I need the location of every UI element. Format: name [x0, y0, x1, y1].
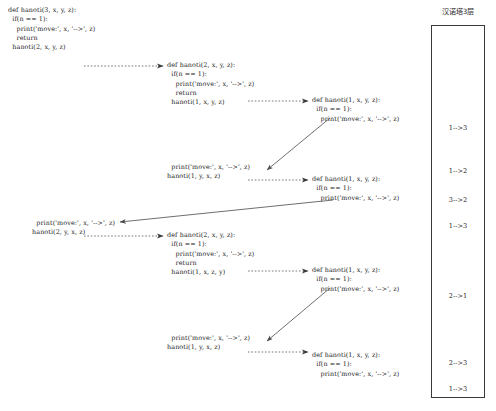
code-line: return: [167, 259, 254, 268]
move-entry: 2-->3: [431, 359, 485, 367]
code-line: hanoti(2, y, x, z): [32, 228, 115, 237]
code-line: def hanoti(1, x, y, z):: [312, 175, 399, 184]
code-line: def hanoti(1, x, y, z):: [312, 266, 399, 275]
arrow-return-1-to-print-third: [267, 288, 330, 341]
code-line: if(n == 1):: [167, 240, 254, 249]
code-line: print('move:', x, '-->', z): [167, 334, 250, 343]
call-hanoti-1-x-y-z-second: def hanoti(1, x, y, z): if(n == 1): prin…: [312, 175, 399, 203]
call-hanoti-1-x-y-z-fourth: def hanoti(1, x, y, z): if(n == 1): prin…: [312, 351, 399, 379]
code-line: def hanoti(1, x, y, z):: [312, 96, 399, 105]
move-entry: 1-->3: [431, 222, 485, 230]
moves-result-panel: [431, 25, 485, 398]
code-line: def hanoti(2, x, y, z):: [167, 231, 254, 240]
code-line: if(n == 1):: [312, 275, 399, 284]
move-entry: 1-->2: [431, 167, 485, 175]
code-line: print('move:', x, '-->', z): [167, 80, 254, 89]
code-line: print('move:', x, '-->', z): [8, 25, 95, 34]
code-line: print('move:', x, '-->', z): [167, 163, 250, 172]
code-line: return: [8, 34, 95, 43]
call-hanoti-3-x-y-z: def hanoti(3, x, y, z): if(n == 1): prin…: [8, 6, 95, 52]
move-entry: 1-->3: [431, 124, 485, 132]
code-line: hanoti(1, x, z, y): [167, 268, 254, 277]
return-print-and-call-1-y-x-z-second: print('move:', x, '-->', z)hanoti(1, y, …: [167, 334, 250, 353]
call-hanoti-1-x-y-z-third: def hanoti(1, x, y, z): if(n == 1): prin…: [312, 266, 399, 294]
code-line: if(n == 1):: [8, 15, 95, 24]
arrow-return-1-to-print-first: [267, 118, 330, 170]
code-line: print('move:', x, '-->', z): [312, 194, 399, 203]
panel-title: 汉诺塔3层: [431, 6, 485, 16]
code-line: return: [167, 89, 254, 98]
code-line: print('move:', x, '-->', z): [312, 285, 399, 294]
code-line: def hanoti(2, x, y, z):: [167, 61, 254, 70]
move-entry: 2-->1: [431, 292, 485, 300]
return-print-and-call-2-y-x-z: print('move:', x, '-->', z)hanoti(2, y, …: [32, 219, 115, 238]
code-line: if(n == 1):: [167, 70, 254, 79]
code-line: hanoti(1, y, x, z): [167, 172, 250, 181]
code-line: if(n == 1):: [312, 360, 399, 369]
call-hanoti-2-x-y-z-first: def hanoti(2, x, y, z): if(n == 1): prin…: [167, 61, 254, 107]
code-line: print('move:', x, '-->', z): [167, 250, 254, 259]
code-line: print('move:', x, '-->', z): [312, 115, 399, 124]
code-line: def hanoti(3, x, y, z):: [8, 6, 95, 15]
diagram-canvas: def hanoti(3, x, y, z): if(n == 1): prin…: [0, 0, 496, 411]
code-line: hanoti(1, x, y, z): [167, 98, 254, 107]
code-line: def hanoti(1, x, y, z):: [312, 351, 399, 360]
move-entry: 1-->3: [431, 385, 485, 393]
code-line: if(n == 1):: [312, 105, 399, 114]
arrow-return-1-to-print-second: [120, 200, 333, 222]
call-hanoti-2-x-y-z-second: def hanoti(2, x, y, z): if(n == 1): prin…: [167, 231, 254, 277]
code-line: hanoti(2, x, y, z): [8, 43, 95, 52]
call-hanoti-1-x-y-z-first: def hanoti(1, x, y, z): if(n == 1): prin…: [312, 96, 399, 124]
move-entry: 3-->2: [431, 196, 485, 204]
code-line: if(n == 1):: [312, 184, 399, 193]
code-line: hanoti(1, y, x, z): [167, 343, 250, 352]
code-line: print('move:', x, '-->', z): [32, 219, 115, 228]
return-print-and-call-1-y-x-z-first: print('move:', x, '-->', z)hanoti(1, y, …: [167, 163, 250, 182]
code-line: print('move:', x, '-->', z): [312, 370, 399, 379]
